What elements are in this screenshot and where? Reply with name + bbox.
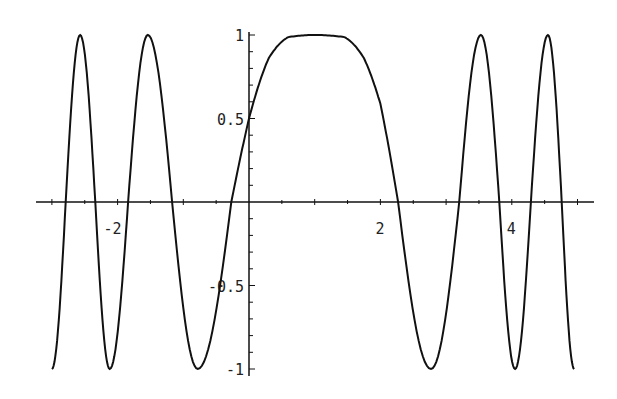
line-plot: -22410.5-0.5-1: [0, 0, 617, 399]
x-tick-label: 4: [507, 220, 516, 238]
x-tick-label: 2: [375, 220, 384, 238]
y-tick-label: -0.5: [208, 278, 244, 296]
y-tick-label: -1: [226, 361, 244, 379]
y-tick-label: 1: [235, 27, 244, 45]
tick-labels: -22410.5-0.5-1: [104, 27, 516, 379]
y-tick-label: 0.5: [217, 111, 244, 129]
x-tick-label: -2: [104, 220, 122, 238]
